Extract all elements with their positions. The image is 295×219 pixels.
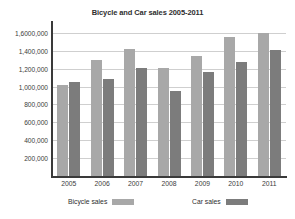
legend-entry-car-sales[interactable]: Car sales (192, 198, 248, 205)
bar-car-2007[interactable] (136, 68, 147, 176)
bar-car-2010[interactable] (236, 62, 247, 176)
legend-label-bicycle-sales: Bicycle sales (68, 198, 107, 205)
bar-car-2008[interactable] (170, 91, 181, 176)
legend-swatch-bicycle-sales (112, 199, 134, 205)
bar-car-2011[interactable] (270, 50, 281, 176)
y-axis-tick-labels: 200,000400,000600,000800,0001,000,0001,2… (0, 24, 48, 176)
x-axis-line (51, 176, 287, 178)
legend-swatch-car-sales (226, 199, 248, 205)
bar-chart-figure: Bicycle and Car sales 2005-2011 200,0004… (0, 0, 295, 219)
y-axis-tick-label: 600,000 (0, 119, 48, 126)
bar-group (258, 24, 281, 176)
legend-label-car-sales: Car sales (192, 198, 221, 205)
bar-bicycle-2005[interactable] (57, 85, 68, 176)
bar-car-2006[interactable] (103, 79, 114, 176)
bar-group (224, 24, 247, 176)
legend-entry-bicycle-sales[interactable]: Bicycle sales (68, 198, 134, 205)
bar-bicycle-2011[interactable] (258, 33, 269, 176)
bar-bicycle-2006[interactable] (91, 60, 102, 176)
chart-title: Bicycle and Car sales 2005-2011 (0, 8, 295, 17)
y-axis-tick-label: 200,000 (0, 155, 48, 162)
bar-car-2005[interactable] (69, 82, 80, 176)
bar-bicycle-2010[interactable] (224, 37, 235, 176)
bar-group (124, 24, 147, 176)
y-axis-tick-label: 1,200,000 (0, 65, 48, 72)
bar-bicycle-2007[interactable] (124, 49, 135, 176)
bar-bicycle-2009[interactable] (191, 56, 202, 176)
y-axis-tick-label: 800,000 (0, 101, 48, 108)
bar-car-2009[interactable] (203, 72, 214, 176)
y-axis-tick-label: 400,000 (0, 137, 48, 144)
bars-layer (52, 24, 286, 176)
y-axis-tick-label: 1,6000,000 (0, 29, 48, 36)
x-axis-tick-labels: 2005200620072008200920102011 (52, 180, 286, 192)
y-axis-tick-label: 1,400,000 (0, 47, 48, 54)
chart-legend: Bicycle sales Car sales (52, 198, 286, 212)
bar-group (158, 24, 181, 176)
bar-group (91, 24, 114, 176)
bar-bicycle-2008[interactable] (158, 68, 169, 176)
bar-group (57, 24, 80, 176)
y-axis-tick-label: 1,000,000 (0, 83, 48, 90)
bar-group (191, 24, 214, 176)
x-axis-tick-label: 2011 (249, 180, 289, 187)
